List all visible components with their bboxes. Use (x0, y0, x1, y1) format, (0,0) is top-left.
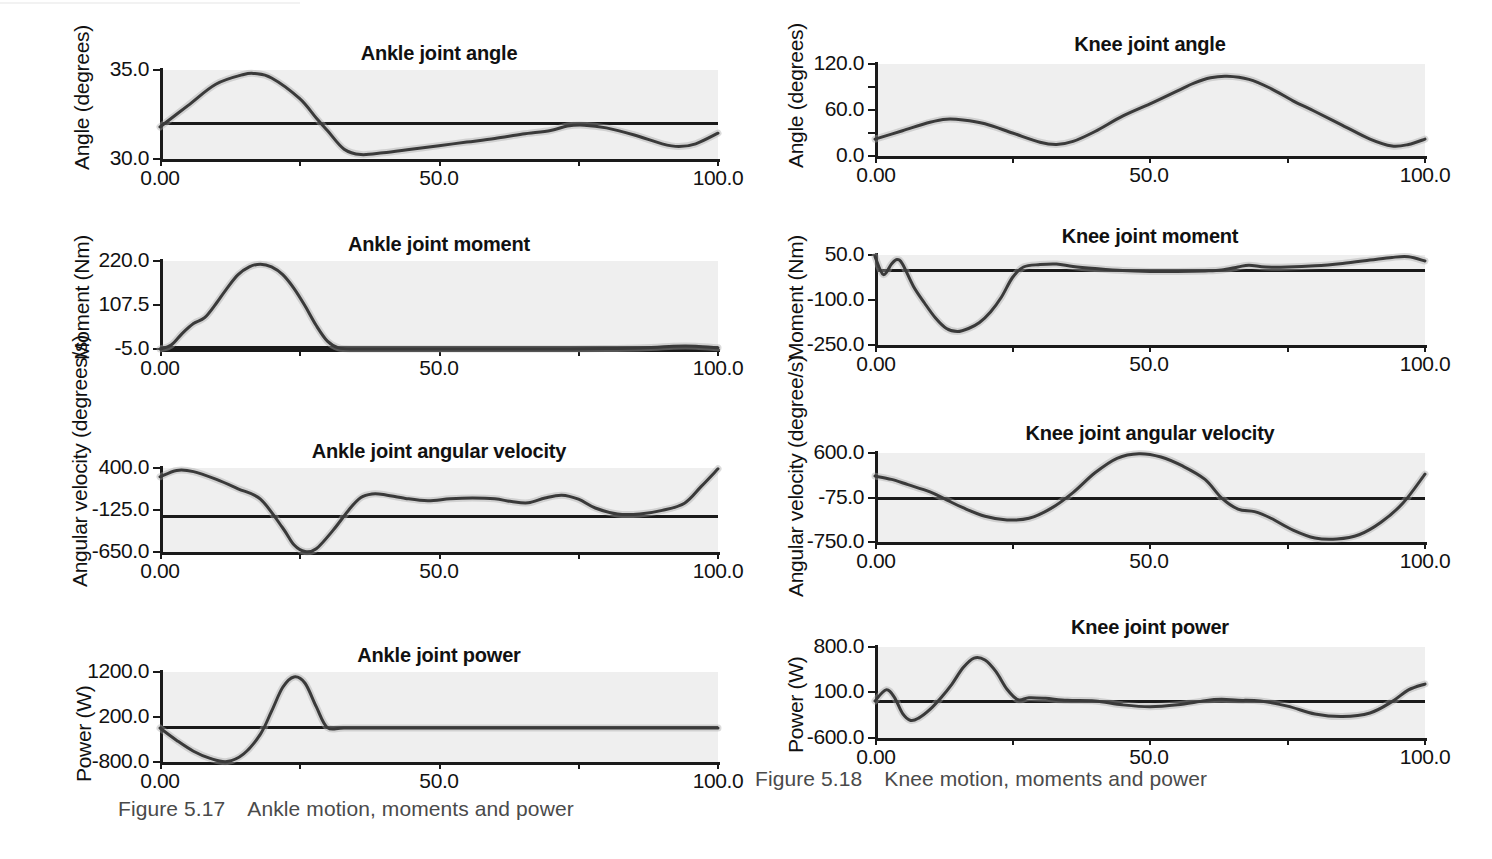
figure-ankle: Ankle joint angle Angle (degrees) 35.0 3… (0, 0, 746, 859)
panel-ankle-joint-power: Ankle joint power Power (W) 1200.0 200.0… (0, 590, 746, 810)
panel-ankle-joint-angular-velocity: Ankle joint angular velocity Angular vel… (0, 380, 746, 590)
caption-text: Ankle motion, moments and power (247, 797, 573, 820)
figure-caption-knee: Figure 5.18Knee motion, moments and powe… (755, 767, 1207, 791)
panel-knee-joint-moment: Knee joint moment Moment (Nm) 50.0 -100.… (746, 190, 1492, 380)
caption-text: Knee motion, moments and power (884, 767, 1207, 790)
series-curve-knee-angular-velocity (746, 380, 1492, 590)
figure-knee: Knee joint angle Angle (degrees) 120.0 6… (746, 0, 1492, 859)
series-curve-ankle-power (0, 590, 746, 810)
panel-ankle-joint-moment: Ankle joint moment Moment (Nm) 220.0 107… (0, 190, 746, 380)
series-curve-knee-moment (746, 190, 1492, 380)
series-curve-knee-angle (746, 0, 1492, 200)
caption-number: Figure 5.17 (118, 797, 225, 820)
caption-number: Figure 5.18 (755, 767, 862, 790)
panel-knee-joint-angular-velocity: Knee joint angular velocity Angular velo… (746, 380, 1492, 590)
series-curve-ankle-angular-velocity (0, 380, 746, 590)
panel-knee-joint-angle: Knee joint angle Angle (degrees) 120.0 6… (746, 0, 1492, 200)
figure-caption-ankle: Figure 5.17Ankle motion, moments and pow… (118, 797, 574, 821)
series-curve-ankle-moment (0, 190, 746, 380)
panel-ankle-joint-angle: Ankle joint angle Angle (degrees) 35.0 3… (0, 0, 746, 200)
series-curve-ankle-angle (0, 0, 746, 200)
